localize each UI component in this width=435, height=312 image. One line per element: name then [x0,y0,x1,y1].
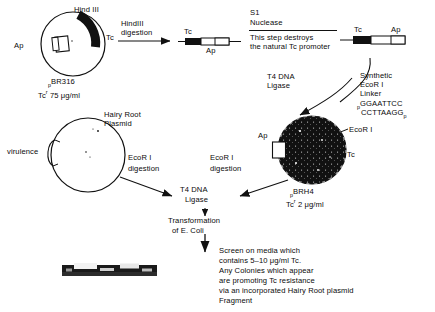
linker-seq-bottom: CCTTAAGGp [361,108,407,121]
screen-note-line4: are promoting Tc resistance [219,276,315,285]
linker-seq-bottom-main: CCTTAAGG [361,108,403,117]
plasmid-pbrh4-graphic [273,116,349,184]
step-s1-note2: the natural Tc promoter [250,42,330,51]
label-pbrh4-marker: Tcr 2 μg/ml [286,197,324,209]
step-ecori-right-line2: digestion [210,164,241,173]
label-fragment1-tc: Tc [184,27,192,36]
label-fragment1-ap: Ap [206,46,216,55]
step-ligase-bottom-line2: Ligase [185,195,208,204]
label-pbrh4-name-main: BRH4 [293,187,314,196]
label-hairyroot-title2: Plasmid [104,119,132,128]
plasmid-hairyroot-graphic [48,118,125,192]
linker-line1: Synthetic [360,71,392,80]
fragment-linear-2-graphic [340,36,405,44]
arrow-t4-ligase-top [300,78,352,115]
screen-note-line1: Screen on media which [219,246,300,255]
step-ecori-left-line2: digestion [128,164,159,173]
step-ecori-left-line1: EcoR I [128,153,151,162]
step-ligase-top-line1: T4 DNA [267,72,295,81]
step-hindiii-line1: HindIII [121,19,144,28]
screen-note-line6: Fragment [219,296,252,305]
linker-seq-top-main: GGAATTCC [360,99,402,108]
arrow-ecori-left [120,177,172,196]
label-virulence: virulence [7,147,38,156]
label-pbrh4-marker-value: 2 μg/ml [296,200,324,209]
linker-seq-bottom-sub: p [403,113,406,119]
fragment-linear-1-graphic [178,38,241,45]
screen-note-line5: via an incorporated Hairy Root plasmid [219,286,354,295]
label-pbr316-ap: Ap [14,41,24,50]
linker-line2: EcoR I [360,80,383,89]
label-hindiii-site: Hind III [74,5,99,14]
label-pbr316-tc: Tc [106,33,114,42]
label-fragment2-ap: Ap [391,25,401,34]
label-pbrh4-ap: Ap [258,131,268,140]
step-s1-line2: Nuclease [250,18,282,27]
label-pbr316-name-main: BR316 [51,77,75,86]
step-s1-line1: S1 [250,8,260,17]
step-ecori-right-line1: EcoR I [210,153,233,162]
arrow-ecori-right [240,180,288,196]
linker-line3: Linker [360,89,381,98]
label-fragment2-tc: Tc [354,25,362,34]
label-pbrh4-marker-prefix: Tc [286,200,294,209]
step-ligase-top-line2: Ligase [267,81,290,90]
step-transformation-line1: Transformation [168,216,220,225]
step-ligase-bottom-line1: T4 DNA [180,185,208,194]
label-pbr316-marker-value: 75 μg/ml [48,91,80,100]
step-transformation-line2: of E. Coli [172,226,204,235]
colony-plate-photo [62,263,157,276]
label-hairyroot-title1: Hairy Root [104,110,141,119]
label-pbr316-marker: Tcr 75 μg/ml [38,88,80,100]
label-pbrh4-ecori: EcoR I [349,125,372,134]
label-pbr316-marker-prefix: Tc [38,91,46,100]
step-hindiii-line2: digestion [121,28,152,37]
label-pbrh4-tc: Tc [347,150,355,159]
screen-note-line3: Any Colonies which appear [219,266,314,275]
step-s1-note1: This step destroys [250,33,313,42]
plasmid-pbr316-graphic [41,12,105,76]
screen-note-line2: contains 5–10 μg/ml Tc. [219,256,301,265]
